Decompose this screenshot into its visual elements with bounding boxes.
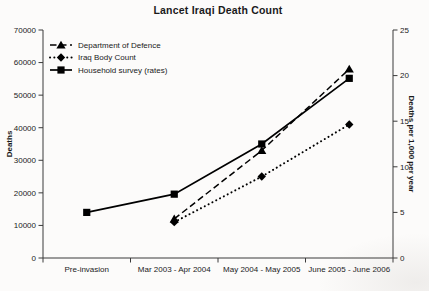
left-axis-tick-label: 30000 (14, 156, 37, 165)
right-axis-tick-label: 15 (400, 117, 409, 126)
series-line-3 (87, 78, 350, 212)
left-axis-tick-label: 50000 (14, 91, 37, 100)
legend-item-label: Department of Defence (78, 41, 161, 50)
chart: Lancet Iraqi Death Count Deaths Deaths p… (0, 0, 429, 291)
x-axis-category-label: Mar 2003 - Apr 2004 (138, 265, 211, 274)
series-marker-2 (345, 120, 353, 128)
left-axis-tick-label: 60000 (14, 58, 37, 67)
left-axis-tick-label: 70000 (14, 26, 37, 35)
left-axis-tick-label: 40000 (14, 124, 37, 133)
x-axis-category-label: June 2005 - June 2006 (308, 265, 390, 274)
legend-item-label: Iraq Body Count (78, 53, 137, 62)
series-marker-3 (258, 140, 265, 147)
legend-marker (57, 66, 64, 73)
series-marker-3 (171, 191, 178, 198)
series-marker-3 (83, 209, 90, 216)
series-marker-2 (258, 172, 266, 180)
legend-item-label: Household survey (rates) (78, 66, 168, 75)
left-axis-tick-label: 10000 (14, 221, 37, 230)
series-marker-2 (170, 218, 178, 226)
x-axis-category-label: May 2004 - May 2005 (223, 265, 301, 274)
plot-area: 0100002000030000400005000060000700000510… (0, 0, 429, 291)
right-axis-tick-label: 5 (400, 208, 405, 217)
series-marker-1 (345, 65, 354, 73)
series-marker-3 (346, 75, 353, 82)
right-axis-tick-label: 25 (400, 26, 409, 35)
axis-frame (43, 30, 393, 258)
x-axis-category-label: Pre-invasion (65, 265, 109, 274)
left-axis-tick-label: 20000 (14, 189, 37, 198)
right-axis-tick-label: 10 (400, 163, 409, 172)
legend-marker (57, 53, 65, 61)
right-axis-tick-label: 0 (400, 254, 405, 263)
left-axis-tick-label: 0 (32, 254, 37, 263)
right-axis-tick-label: 20 (400, 71, 409, 80)
